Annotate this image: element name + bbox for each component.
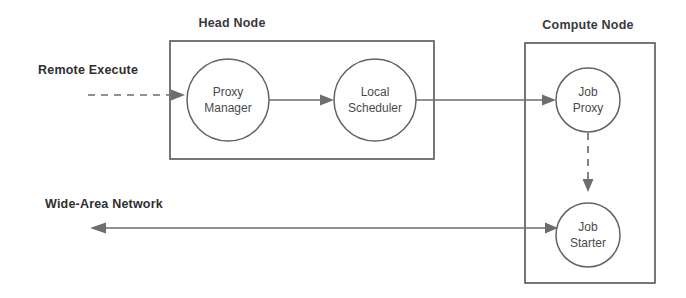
job-proxy-circle [556,68,620,132]
compute-node-label: Compute Node [542,18,633,32]
job-starter-label-line2: Starter [570,236,606,250]
remote-execute-label: Remote Execute [38,63,138,77]
local-scheduler-label-line1: Local [361,85,390,99]
job-proxy-label-line1: Job [578,85,598,99]
local-scheduler-circle [334,59,416,141]
jobproxy-to-jobstarter-arrowhead [583,179,594,192]
job-starter-circle [556,203,620,267]
scheduler-to-jobproxy-arrowhead [542,95,556,106]
diagram-canvas: Head Node Compute Node Proxy Manager Loc… [0,0,686,298]
remote-execute-arrowhead [171,90,185,101]
job-starter-label-line1: Job [578,220,598,234]
proxy-manager-circle [187,59,269,141]
proxy-manager-label-line2: Manager [204,101,251,115]
proxy-to-scheduler-arrowhead [320,95,334,106]
job-proxy-label-line2: Proxy [573,101,604,115]
head-node-label: Head Node [198,16,265,30]
proxy-manager-label-line1: Proxy [213,85,244,99]
local-scheduler-label-line2: Scheduler [348,101,402,115]
architecture-diagram: Head Node Compute Node Proxy Manager Loc… [0,0,686,298]
wide-area-network-label: Wide-Area Network [45,197,163,211]
wan-left-arrowhead [90,223,106,234]
